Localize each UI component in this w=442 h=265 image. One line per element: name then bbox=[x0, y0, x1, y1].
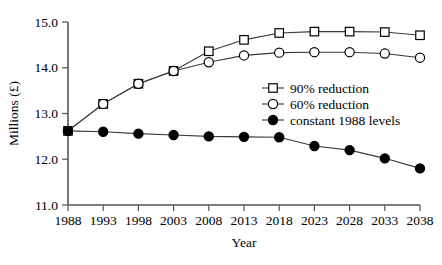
line-chart: 11.012.013.014.015.0 1988199319982003200… bbox=[0, 0, 442, 265]
x-tick-label: 2003 bbox=[160, 213, 187, 228]
marker-open-square bbox=[205, 47, 214, 56]
marker-filled-circle bbox=[99, 127, 108, 136]
legend-item[interactable]: 60% reduction bbox=[262, 97, 369, 112]
y-tick-label: 12.0 bbox=[34, 152, 58, 167]
marker-open-square bbox=[240, 36, 249, 45]
marker-filled-circle bbox=[204, 132, 213, 141]
y-tick-label: 14.0 bbox=[34, 60, 58, 75]
marker-open-circle bbox=[268, 99, 277, 108]
legend-item[interactable]: constant 1988 levels bbox=[262, 113, 400, 128]
legend-item-label: constant 1988 levels bbox=[290, 113, 400, 128]
marker-filled-circle bbox=[63, 126, 72, 135]
marker-open-square bbox=[269, 84, 278, 93]
marker-open-circle bbox=[239, 51, 248, 60]
marker-open-circle bbox=[380, 49, 389, 58]
y-axis-tick-labels: 11.012.013.014.015.0 bbox=[34, 15, 58, 213]
y-tick-label: 13.0 bbox=[34, 106, 58, 121]
marker-filled-circle bbox=[275, 133, 284, 142]
x-tick-label: 2028 bbox=[336, 213, 363, 228]
x-axis-title: Year bbox=[232, 235, 257, 250]
marker-open-circle bbox=[415, 53, 424, 62]
marker-open-square bbox=[275, 29, 284, 38]
legend-item-label: 60% reduction bbox=[290, 97, 369, 112]
marker-filled-circle bbox=[380, 154, 389, 163]
x-tick-label: 2013 bbox=[231, 213, 258, 228]
marker-filled-circle bbox=[415, 164, 424, 173]
marker-open-square bbox=[381, 28, 390, 37]
marker-filled-circle bbox=[345, 146, 354, 155]
chart-container: 11.012.013.014.015.0 1988199319982003200… bbox=[0, 0, 442, 265]
legend-item-label: 90% reduction bbox=[290, 81, 369, 96]
marker-filled-circle bbox=[268, 115, 277, 124]
marker-open-square bbox=[416, 31, 425, 40]
x-tick-label: 2018 bbox=[266, 213, 293, 228]
marker-filled-circle bbox=[134, 129, 143, 138]
marker-open-circle bbox=[134, 79, 143, 88]
marker-open-square bbox=[310, 27, 319, 35]
y-tick-label: 11.0 bbox=[35, 198, 58, 213]
x-tick-label: 2008 bbox=[195, 213, 222, 228]
legend-item[interactable]: 90% reduction bbox=[262, 81, 369, 96]
marker-open-circle bbox=[99, 99, 108, 108]
chart-legend: 90% reduction60% reductionconstant 1988 … bbox=[262, 81, 400, 128]
marker-open-circle bbox=[345, 48, 354, 57]
data-series-layer bbox=[63, 27, 424, 173]
x-tick-label: 1998 bbox=[125, 213, 152, 228]
marker-open-circle bbox=[204, 58, 213, 67]
data-series bbox=[63, 126, 424, 173]
x-tick-label: 1993 bbox=[90, 213, 117, 228]
y-axis-title: Millions (£) bbox=[6, 81, 21, 146]
marker-open-square bbox=[345, 27, 354, 35]
x-tick-label: 2038 bbox=[407, 213, 434, 228]
marker-filled-circle bbox=[310, 141, 319, 150]
marker-filled-circle bbox=[169, 130, 178, 139]
marker-open-circle bbox=[169, 66, 178, 75]
marker-open-circle bbox=[275, 48, 284, 57]
y-tick-label: 15.0 bbox=[34, 15, 58, 30]
x-tick-label: 2033 bbox=[371, 213, 398, 228]
x-tick-label: 2023 bbox=[301, 213, 328, 228]
x-axis-tick-labels: 1988199319982003200820132018202320282033… bbox=[55, 213, 434, 228]
marker-filled-circle bbox=[239, 132, 248, 141]
x-tick-label: 1988 bbox=[55, 213, 82, 228]
marker-open-circle bbox=[310, 48, 319, 57]
